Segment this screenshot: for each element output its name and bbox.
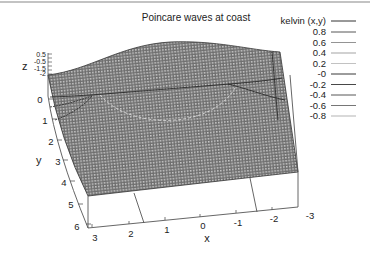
z-axis-label: z — [22, 60, 28, 72]
legend: kelvin (x,y) 0.8 0.6 0.4 0.2 -0 -0.2 -0.… — [281, 15, 356, 121]
svg-text:-0.6: -0.6 — [310, 100, 326, 111]
svg-text:0: 0 — [37, 94, 42, 105]
z-tick-label: -2 — [40, 70, 46, 77]
svg-text:2: 2 — [48, 136, 53, 147]
svg-text:2: 2 — [128, 228, 133, 239]
surface-mesh — [48, 42, 298, 196]
svg-text:-1: -1 — [234, 217, 242, 228]
svg-text:3: 3 — [92, 232, 97, 243]
svg-text:3: 3 — [55, 156, 60, 167]
svg-text:0.8: 0.8 — [313, 26, 326, 37]
z-tick-label: 0.5 — [36, 51, 46, 58]
svg-text:1: 1 — [42, 115, 47, 126]
surface-plot: Poincare waves at coast 0.5 -0.5 -1.5 -2… — [0, 0, 370, 256]
x-tick-labels: 3 2 1 0 -1 -2 -3 x — [92, 210, 314, 244]
svg-text:0.6: 0.6 — [313, 37, 326, 48]
z-tick-label: -0.5 — [34, 58, 46, 65]
z-axis: 0.5 -0.5 -1.5 -2 z — [22, 51, 52, 77]
svg-text:-0.4: -0.4 — [310, 89, 326, 100]
svg-text:-0.2: -0.2 — [310, 79, 326, 90]
svg-text:0.4: 0.4 — [313, 47, 326, 58]
svg-text:-2: -2 — [270, 213, 278, 224]
svg-text:5: 5 — [68, 199, 73, 210]
svg-text:-3: -3 — [306, 210, 314, 221]
x-axis-label: x — [204, 232, 210, 244]
svg-text:-0: -0 — [318, 68, 326, 79]
chart-title: Poincare waves at coast — [142, 12, 251, 23]
svg-text:0.2: 0.2 — [313, 58, 326, 69]
x-ticks — [92, 207, 272, 227]
svg-text:4: 4 — [61, 177, 66, 188]
legend-title: kelvin (x,y) — [281, 15, 326, 26]
svg-text:0: 0 — [200, 220, 205, 231]
svg-text:-0.8: -0.8 — [310, 110, 326, 121]
svg-text:1: 1 — [164, 224, 169, 235]
svg-text:6: 6 — [74, 221, 79, 232]
y-axis-label: y — [36, 154, 42, 166]
